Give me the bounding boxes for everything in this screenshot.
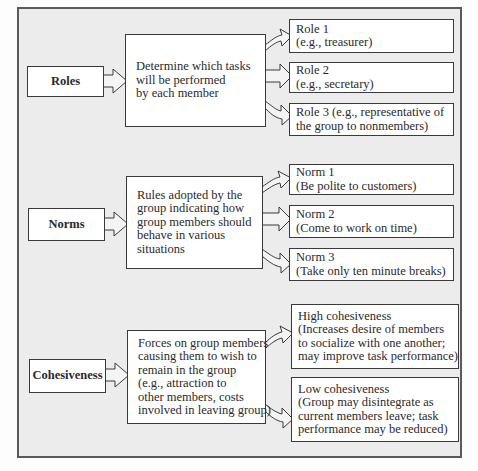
- description-line: causing them to wish to: [138, 350, 265, 364]
- description-norms: Rules adopted by the group indicating ho…: [126, 176, 263, 269]
- description-line: Rules adopted by the: [137, 189, 262, 203]
- outcome-line: Role 2: [296, 64, 447, 78]
- category-label: Roles: [51, 75, 80, 89]
- description-line: remain in the group: [138, 364, 265, 378]
- outcome-high-cohesiveness: High cohesiveness (Increases desire of m…: [291, 304, 459, 369]
- outcome-line: current members leave; task: [298, 410, 452, 424]
- outcome-line: performance may be reduced): [298, 423, 452, 437]
- category-cohesiveness: Cohesiveness: [29, 359, 106, 393]
- description-line: (e.g., attraction to: [138, 377, 265, 391]
- outcome-line: Norm 3: [296, 251, 447, 265]
- description-line: Forces on group members: [138, 337, 265, 351]
- category-norms: Norms: [28, 208, 105, 241]
- outcome-line: to socialize with one another;: [298, 337, 452, 351]
- outcome-line: (Come to work on time): [296, 222, 447, 236]
- outcome-norm-2: Norm 2 (Come to work on time): [289, 205, 454, 238]
- arrow-cohesiveness-to-description: [105, 363, 129, 387]
- arrow-to-role-2: [265, 64, 292, 88]
- outcome-low-cohesiveness: Low cohesiveness (Group may disintegrate…: [291, 377, 459, 442]
- outcome-role-1: Role 1 (e.g., treasurer): [289, 19, 454, 53]
- outcome-line: (e.g., secretary): [296, 78, 447, 92]
- outcome-line: Low cohesiveness: [298, 383, 452, 397]
- outcome-line: Norm 2: [296, 208, 447, 222]
- category-label: Norms: [48, 218, 84, 232]
- description-line: group members should: [137, 216, 262, 230]
- arrow-to-norm-1: [262, 171, 291, 193]
- arrow-to-role-1: [265, 29, 292, 51]
- outcome-role-2: Role 2 (e.g., secretary): [289, 62, 454, 93]
- description-line: other members, costs: [138, 391, 265, 405]
- outcome-line: the group to nonmembers): [296, 120, 447, 134]
- description-roles: Determine which tasks will be performed …: [125, 34, 266, 127]
- arrow-to-norm-3: [262, 249, 291, 273]
- arrow-to-norm-2: [262, 207, 291, 231]
- outcome-line: Role 3 (e.g., representative of: [296, 106, 447, 120]
- outcome-line: Role 1: [296, 23, 447, 37]
- description-line: situations: [137, 243, 262, 257]
- description-line: Determine which tasks: [136, 60, 265, 74]
- category-label: Cohesiveness: [32, 369, 102, 383]
- outcome-line: (Increases desire of members: [298, 323, 452, 337]
- description-line: involved in leaving group): [138, 404, 265, 418]
- description-cohesiveness: Forces on group members causing them to …: [127, 330, 266, 424]
- description-line: will be performed: [136, 74, 265, 88]
- outcome-role-3: Role 3 (e.g., representative of the grou…: [289, 103, 454, 136]
- category-roles: Roles: [27, 66, 104, 97]
- outcome-norm-3: Norm 3 (Take only ten minute breaks): [289, 248, 454, 281]
- outcome-line: (Take only ten minute breaks): [296, 265, 447, 279]
- arrow-norms-to-description: [104, 212, 128, 236]
- outcome-line: (Be polite to customers): [296, 180, 447, 194]
- outcome-line: (Group may disintegrate as: [298, 396, 452, 410]
- outcome-line: (e.g., treasurer): [296, 36, 447, 50]
- arrow-to-high-cohesiveness: [265, 326, 293, 349]
- description-line: behave in various: [137, 229, 262, 243]
- outcome-line: High cohesiveness: [298, 310, 452, 324]
- arrow-to-role-3: [265, 101, 292, 125]
- outcome-line: may improve task performance): [298, 350, 452, 364]
- description-line: group indicating how: [137, 202, 262, 216]
- outcome-norm-1: Norm 1 (Be polite to customers): [289, 164, 454, 195]
- arrow-roles-to-description: [103, 69, 127, 93]
- description-line: by each member: [136, 87, 265, 101]
- outcome-line: Norm 1: [296, 166, 447, 180]
